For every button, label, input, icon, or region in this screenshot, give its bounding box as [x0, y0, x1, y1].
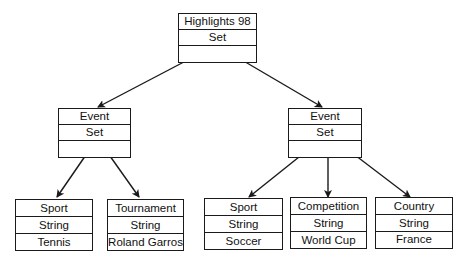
node-value [59, 141, 130, 157]
node-value [179, 46, 256, 62]
node-label: Sport [205, 199, 282, 216]
node-event-left: Event Set [58, 108, 131, 158]
node-sport-tennis: Sport String Tennis [15, 199, 93, 251]
node-value: France [376, 232, 452, 248]
node-label: Country [376, 198, 452, 215]
node-value [289, 141, 361, 157]
node-type: Set [289, 125, 361, 141]
node-type: String [376, 215, 452, 232]
node-type: Set [59, 125, 130, 141]
node-type: String [291, 215, 366, 232]
node-label: Event [59, 109, 130, 125]
node-root: Highlights 98 Set [178, 13, 257, 63]
node-sport-soccer: Sport String Soccer [204, 198, 283, 250]
node-event-right: Event Set [288, 108, 362, 158]
node-label: Tournament [108, 200, 183, 217]
node-country: Country String France [375, 197, 453, 249]
node-type: String [108, 217, 183, 234]
node-type: Set [179, 30, 256, 46]
node-value: World Cup [291, 232, 366, 248]
node-value: Soccer [205, 233, 282, 249]
node-type: String [205, 216, 282, 233]
node-value: Roland Garros [108, 234, 183, 250]
node-type: String [16, 217, 92, 234]
node-tournament: Tournament String Roland Garros [107, 199, 184, 251]
node-label: Event [289, 109, 361, 125]
node-label: Competition [291, 198, 366, 215]
node-value: Tennis [16, 234, 92, 250]
node-label: Sport [16, 200, 92, 217]
node-label: Highlights 98 [179, 14, 256, 30]
node-competition: Competition String World Cup [290, 197, 367, 249]
